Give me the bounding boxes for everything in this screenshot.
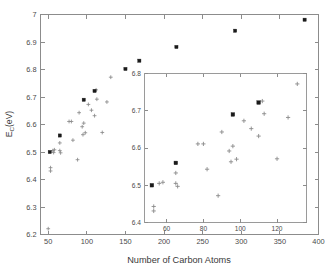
data-point-plus xyxy=(100,131,104,135)
data-point-square xyxy=(58,134,61,137)
inset-y-tick-label: 6.6 xyxy=(132,144,141,151)
y-tick-label: 6.4 xyxy=(26,175,36,184)
inset-y-tick-label: 6.7 xyxy=(132,107,141,114)
data-point-square xyxy=(138,59,141,62)
inset-data-point-square xyxy=(150,183,154,187)
inset-x-tick-label: 60 xyxy=(163,225,171,232)
inset-data-point-square xyxy=(257,101,261,105)
main-series-isomer-population xyxy=(46,75,112,230)
inset-y-tick-label: 6.8 xyxy=(132,70,141,77)
y-tick-label: 7 xyxy=(32,10,36,19)
x-axis-title: Number of Carbon Atoms xyxy=(127,255,231,265)
y-tick-label: 6.2 xyxy=(26,230,36,239)
data-point-plus xyxy=(105,100,109,104)
data-point-plus xyxy=(81,133,85,137)
y-tick-label: 6.6 xyxy=(26,120,36,129)
data-point-square xyxy=(175,45,178,48)
y-tick-label: 6.5 xyxy=(26,148,36,157)
data-point-plus xyxy=(71,138,75,142)
svg-text:EC(eV): EC(eV) xyxy=(4,111,15,138)
data-point-plus xyxy=(82,121,86,125)
data-point-plus xyxy=(83,131,87,135)
x-tick-label: 100 xyxy=(81,237,93,246)
x-tick-label: 350 xyxy=(274,237,286,246)
y-axis-title-units: (eV) xyxy=(4,111,14,127)
figure-container: 501001502002503003504006.26.36.46.56.66.… xyxy=(0,0,333,269)
inset-x-tick-label: 120 xyxy=(272,225,283,232)
inset-y-tick-label: 6.4 xyxy=(132,219,141,226)
x-tick-label: 150 xyxy=(119,237,131,246)
data-point-plus xyxy=(49,166,53,170)
data-point-plus xyxy=(69,120,73,124)
inset-background-rect xyxy=(145,74,307,223)
x-tick-label: 400 xyxy=(312,237,324,246)
inset-background xyxy=(145,74,307,223)
data-point-square xyxy=(234,29,237,32)
data-point-plus xyxy=(52,151,56,155)
data-point-plus xyxy=(109,75,113,79)
data-point-plus xyxy=(93,114,97,118)
data-point-plus xyxy=(77,111,81,115)
y-tick-label: 6.8 xyxy=(26,65,36,74)
data-point-square xyxy=(48,150,51,153)
y-tick-label: 6.3 xyxy=(26,203,36,212)
inset-axes-group: 60801001206.46.56.66.76.8 xyxy=(132,70,307,232)
inset-data-point-square xyxy=(231,113,235,117)
data-point-plus xyxy=(86,103,90,107)
data-point-square xyxy=(93,89,96,92)
inset-y-tick-label: 6.5 xyxy=(132,182,141,189)
x-tick-label: 300 xyxy=(235,237,247,246)
data-point-plus xyxy=(49,169,53,173)
data-point-plus xyxy=(90,108,94,112)
data-point-plus xyxy=(59,151,63,155)
inset-x-tick-label: 80 xyxy=(200,225,208,232)
x-tick-label: 200 xyxy=(158,237,170,246)
x-tick-label: 250 xyxy=(196,237,208,246)
data-point-plus xyxy=(80,125,84,129)
y-tick-label: 6.7 xyxy=(26,93,36,102)
data-point-plus xyxy=(58,141,62,145)
inset-data-point-square xyxy=(174,161,178,165)
data-point-plus xyxy=(58,149,62,153)
scatter-plot-canvas: 501001502002503003504006.26.36.46.56.66.… xyxy=(0,0,333,269)
y-axis-title: EC(eV) xyxy=(4,111,15,138)
data-point-square xyxy=(124,67,127,70)
data-point-plus xyxy=(76,158,80,162)
y-tick-label: 6.9 xyxy=(26,38,36,47)
x-tick-label: 50 xyxy=(44,237,52,246)
data-point-square xyxy=(82,98,85,101)
data-point-plus xyxy=(46,227,50,231)
data-point-plus xyxy=(95,97,99,101)
data-point-square xyxy=(303,18,306,21)
inset-x-tick-label: 100 xyxy=(235,225,246,232)
